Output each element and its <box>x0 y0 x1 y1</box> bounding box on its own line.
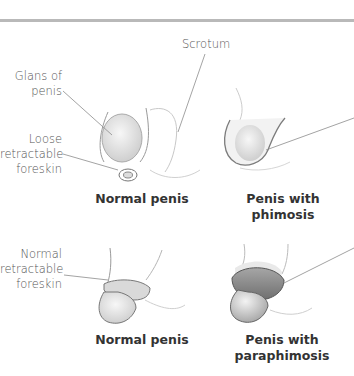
leader-scrotum <box>178 54 205 132</box>
caption-penis-with-paraphimosis: Penis with paraphimosis <box>224 332 340 364</box>
caption-penis-with-phimosis: Penis with phimosis <box>228 191 338 223</box>
caption-normal-penis-bottom: Normal penis <box>92 332 192 348</box>
label-scrotum: Scrotum <box>182 37 230 52</box>
leader-glans <box>63 91 112 135</box>
leader-paraphimosis <box>284 248 354 283</box>
diagram-illustrations <box>0 0 354 376</box>
label-normal-retractable-foreskin: Normal retractable foreskin <box>0 247 62 292</box>
label-loose-retractable-foreskin: Loose retractable foreskin <box>0 132 62 177</box>
normal-penis-illustration-top <box>100 108 200 181</box>
label-glans-of-penis: Glans of penis <box>0 69 62 99</box>
leader-lines <box>63 54 354 283</box>
caption-normal-penis-top: Normal penis <box>92 191 192 207</box>
phimosis-penis-illustration <box>225 88 290 170</box>
normal-penis-illustration-bottom <box>99 248 185 323</box>
leader-normal-foreskin <box>64 275 108 280</box>
paraphimosis-penis-illustration <box>231 244 313 322</box>
